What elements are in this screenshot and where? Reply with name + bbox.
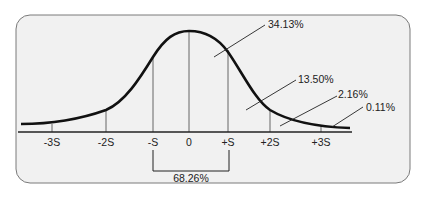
- label-13-50: 13.50%: [298, 73, 334, 85]
- tick-zero: 0: [186, 136, 192, 148]
- tick-minus-2s: -2S: [98, 136, 114, 148]
- label-34-13: 34.13%: [268, 18, 304, 30]
- normal-distribution-diagram: 34.13% 13.50% 2.16% 0.11% -3S -2S -S 0 +…: [0, 0, 422, 199]
- tick-plus-3s: +3S: [312, 136, 331, 148]
- tick-minus-1s: -S: [148, 136, 159, 148]
- label-0-11: 0.11%: [366, 101, 395, 113]
- tick-minus-3s: -3S: [44, 136, 60, 148]
- label-68-26: 68.26%: [173, 172, 209, 184]
- tick-plus-2s: +2S: [261, 136, 280, 148]
- label-2-16: 2.16%: [338, 88, 368, 100]
- tick-plus-1s: +S: [221, 136, 234, 148]
